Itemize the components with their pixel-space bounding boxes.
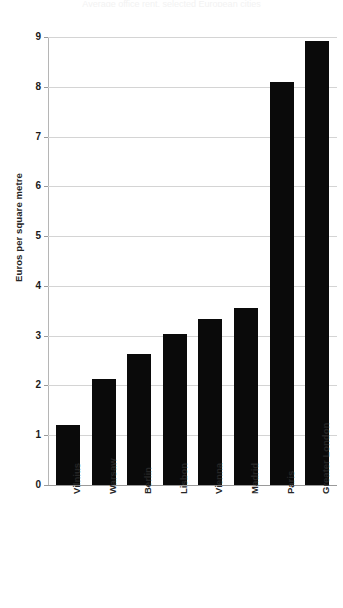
gridline — [48, 286, 337, 287]
y-axis-tick-label: 1 — [35, 430, 41, 440]
plot-area: 0123456789 — [48, 37, 337, 485]
y-axis-tick — [44, 485, 48, 486]
x-axis-tick-label: Vienna — [214, 463, 224, 494]
chart-title-remnant: Average office rent, selected European c… — [0, 0, 343, 7]
gridline — [48, 236, 337, 237]
y-axis-tick-label: 7 — [35, 132, 41, 142]
y-axis-tick — [44, 385, 48, 386]
x-axis-tick-label: Lisbon — [179, 463, 189, 494]
bar[interactable] — [234, 308, 258, 485]
y-axis-tick — [44, 137, 48, 138]
y-axis-title: Euros per square metre — [13, 148, 24, 308]
y-axis-tick — [44, 435, 48, 436]
y-axis-tick-label: 5 — [35, 231, 41, 241]
gridline — [48, 336, 337, 337]
gridline — [48, 137, 337, 138]
x-axis-tick-label: Vilnius — [72, 463, 82, 494]
gridline — [48, 37, 337, 38]
y-axis-tick — [44, 236, 48, 237]
y-axis-tick-label: 4 — [35, 281, 41, 291]
bar[interactable] — [127, 354, 151, 485]
bar-chart: Average office rent, selected European c… — [0, 0, 343, 608]
x-axis-tick-label: Warsaw — [108, 458, 118, 494]
y-axis-tick-label: 3 — [35, 331, 41, 341]
y-axis-tick — [44, 37, 48, 38]
gridline — [48, 87, 337, 88]
gridline — [48, 186, 337, 187]
x-axis-tick-label: Berlin — [143, 467, 153, 494]
y-axis-tick-label: 9 — [35, 32, 41, 42]
y-axis-tick-label: 8 — [35, 82, 41, 92]
bar[interactable] — [270, 82, 294, 485]
y-axis-tick — [44, 286, 48, 287]
y-axis-tick — [44, 336, 48, 337]
x-axis-tick-label: Madrid — [250, 463, 260, 494]
y-axis-tick-label: 2 — [35, 380, 41, 390]
x-axis-tick-label: Greater London — [321, 423, 331, 494]
bar[interactable] — [305, 41, 329, 485]
bar[interactable] — [198, 319, 222, 485]
x-axis-tick-label: Paris — [286, 471, 296, 494]
y-axis-tick-label: 0 — [35, 480, 41, 490]
y-axis-tick-label: 6 — [35, 181, 41, 191]
y-axis-tick — [44, 87, 48, 88]
y-axis-tick — [44, 186, 48, 187]
